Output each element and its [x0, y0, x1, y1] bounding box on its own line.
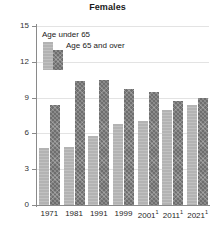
y-tick-mark	[32, 205, 37, 206]
bar-under-65	[39, 148, 49, 205]
y-tick-label: 0	[0, 201, 29, 209]
y-tick-label: 12	[0, 58, 29, 66]
y-tick-label: 6	[0, 129, 29, 137]
bar-under-65	[88, 136, 98, 205]
chart-container: Females 03691215 19711981199119992001120…	[0, 0, 215, 240]
y-tick-mark	[32, 62, 37, 63]
y-tick-label: 15	[0, 22, 29, 30]
legend-label-under-65: Age under 65	[42, 30, 90, 39]
bar-over-65	[173, 101, 183, 205]
legend-swatch-under-65	[43, 42, 53, 70]
y-tick-label: 9	[0, 94, 29, 102]
y-axis-line	[36, 24, 37, 207]
bar-over-65	[50, 105, 60, 205]
bar-under-65	[162, 110, 172, 205]
bar-over-65	[198, 98, 208, 205]
bar-under-65	[64, 147, 74, 205]
y-tick-mark	[32, 133, 37, 134]
bar-over-65	[75, 81, 85, 205]
chart-title: Females	[0, 2, 215, 12]
x-tick-label: 20211	[184, 209, 212, 220]
x-axis-line	[36, 205, 210, 206]
y-tick-mark	[32, 169, 37, 170]
bar-over-65	[124, 89, 134, 205]
bar-over-65	[99, 80, 109, 205]
bar-under-65	[187, 105, 197, 205]
legend-swatch-over-65	[53, 50, 63, 70]
y-tick-label: 3	[0, 165, 29, 173]
y-tick-mark	[32, 26, 37, 27]
legend-swatches	[43, 42, 63, 70]
bar-under-65	[138, 121, 148, 205]
bar-over-65	[149, 92, 159, 205]
legend-label-over-65: Age 65 and over	[66, 41, 125, 50]
chart-legend: Age under 65 Age 65 and over	[41, 30, 201, 74]
bar-under-65	[113, 124, 123, 205]
y-tick-mark	[32, 98, 37, 99]
